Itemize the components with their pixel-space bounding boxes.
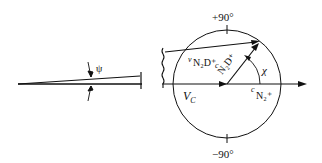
slit — [162, 48, 164, 88]
v-prefix: v — [188, 55, 192, 64]
wedge-beam — [18, 62, 142, 101]
newton-diagram: ψ +90° −90° χ VC v N₂D⁺ c N₂D⁺ c N₂⁺ — [0, 0, 322, 163]
psi-label: ψ — [96, 63, 103, 74]
axis-arrow-icon — [298, 81, 307, 87]
c2-label: N₂⁺ — [256, 90, 272, 101]
chi-label: χ — [261, 64, 268, 76]
v-vector — [165, 42, 256, 52]
minus90-label: −90° — [212, 148, 234, 160]
plus90-label: +90° — [212, 11, 234, 23]
c2-prefix: c — [251, 85, 255, 94]
v-label: N₂D⁺ — [193, 57, 216, 68]
c-label: N₂D⁺ — [215, 51, 238, 76]
chi-arc — [246, 57, 260, 84]
vc-label: VC — [183, 89, 196, 105]
vc-arrow-icon — [219, 81, 227, 87]
